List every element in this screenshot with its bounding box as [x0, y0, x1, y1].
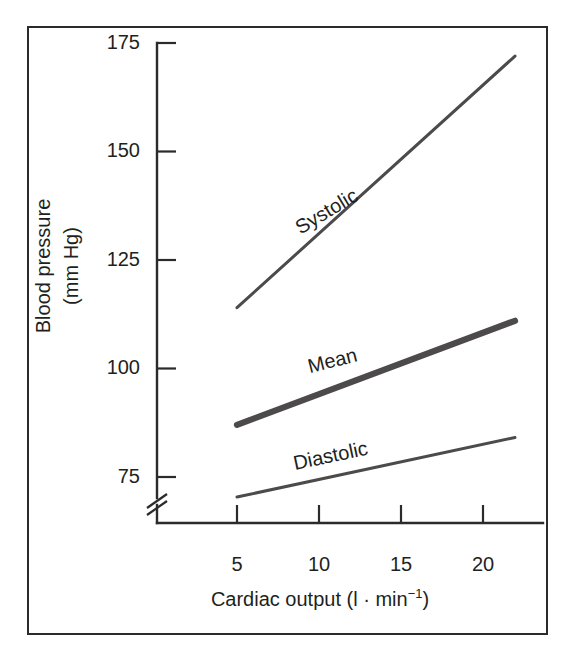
x-axis-title-prefix: Cardiac output (l	[211, 588, 358, 610]
y-tick-label-150: 150	[84, 139, 140, 162]
x-axis-title: Cardiac output (l · min−1)	[120, 588, 520, 611]
x-tick-label-10: 10	[299, 553, 339, 576]
y-axis-title: Blood pressure (mm Hg)	[29, 151, 85, 381]
figure-border	[27, 26, 548, 635]
y-axis-title-line2: (mm Hg)	[57, 151, 85, 381]
y-tick-label-100: 100	[84, 356, 140, 379]
x-tick-label-5: 5	[217, 553, 257, 576]
x-tick-label-20: 20	[463, 553, 503, 576]
y-axis-title-line1: Blood pressure	[32, 199, 54, 334]
x-axis-title-exponent: −1	[408, 586, 423, 601]
figure-container: 175 150 125 100 75 5 10 15 20 Blood pres…	[0, 0, 572, 659]
y-tick-label-125: 125	[84, 248, 140, 271]
x-tick-label-15: 15	[381, 553, 421, 576]
x-axis-title-suffix: )	[422, 588, 429, 610]
y-tick-label-75: 75	[84, 465, 140, 488]
x-axis-title-mid: · min	[358, 588, 408, 610]
y-tick-label-175: 175	[84, 31, 140, 54]
